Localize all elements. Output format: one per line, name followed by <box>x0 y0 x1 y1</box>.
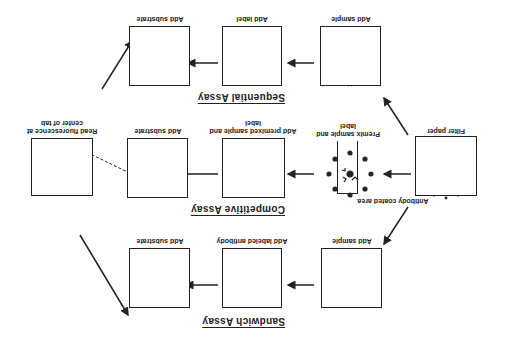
antibody-coated-area-label: Antibody coated area <box>348 197 438 205</box>
premix-tube <box>337 141 358 194</box>
sandwich-step-1-label: Add sample <box>312 237 392 245</box>
arrow-to-sandwich <box>102 41 132 89</box>
arrow-to-sequential <box>80 235 128 315</box>
filter-paper-label: Filter paper <box>415 127 477 135</box>
sequential-step-3-box <box>129 26 190 86</box>
competitive-step-2-label: Add premixed sample and label <box>208 119 298 135</box>
sequential-step-2-label: Add label <box>212 15 292 23</box>
sandwich-step-2-box <box>222 248 282 308</box>
sequential-assay-title: Sequential Assay <box>198 92 285 103</box>
immunoassay-diagram: Filter paper Antibody coated area Sequen… <box>0 0 508 341</box>
sequential-step-2-box <box>222 26 282 86</box>
sequential-step-3-label: Add substrate <box>120 15 200 23</box>
read-fluorescence-label: Read fluorescence at center of tab <box>16 119 108 135</box>
read-fluorescence-box <box>31 138 93 196</box>
sandwich-assay-title: Sandwich Assay <box>202 316 285 327</box>
premix-label: Premix sample and label <box>308 122 388 138</box>
sandwich-step-3-box <box>129 248 190 308</box>
filter-paper-box <box>415 136 477 196</box>
sandwich-step-1-box <box>321 248 382 308</box>
competitive-step-3-box <box>127 138 188 198</box>
competitive-assay-title: Competitive Assay <box>191 204 285 215</box>
sequential-step-1-label: Add sample <box>311 15 391 23</box>
competitive-step-3-label: Add substrate <box>118 127 198 135</box>
sequential-step-1-box <box>320 26 381 86</box>
sandwich-step-3-label: Add substrate <box>120 237 200 245</box>
competitive-step-2-box <box>222 138 285 198</box>
sandwich-step-2-label: Add labeled antibody <box>206 237 298 245</box>
